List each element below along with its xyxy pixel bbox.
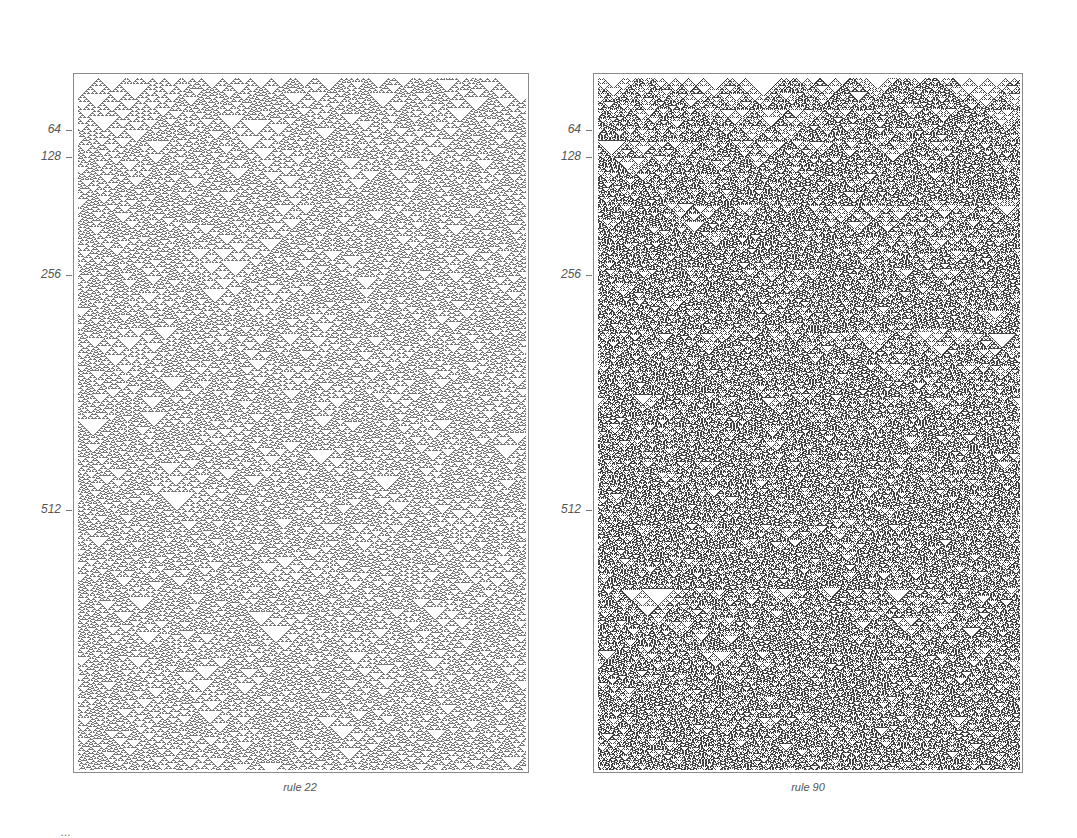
axis-tick-label: 64 (541, 122, 581, 136)
ca-pattern-rule-90 (598, 78, 1020, 770)
panel-caption: rule 90 (708, 781, 908, 793)
axis-tick (586, 130, 592, 131)
axis-tick-label: 128 (541, 149, 581, 163)
axis-tick (586, 510, 592, 511)
axis-tick (66, 130, 72, 131)
axis-tick-label: 512 (21, 502, 61, 516)
ca-panel-rule-90 (593, 73, 1023, 773)
axis-tick (66, 157, 72, 158)
axis-tick (586, 275, 592, 276)
ca-pattern-rule-22 (78, 78, 526, 770)
axis-tick-label: 256 (541, 267, 581, 281)
axis-tick-label: 128 (21, 149, 61, 163)
axis-tick-label: 512 (541, 502, 581, 516)
axis-tick-label: 64 (21, 122, 61, 136)
axis-tick-label: 256 (21, 267, 61, 281)
axis-tick (66, 510, 72, 511)
ca-panel-rule-22 (73, 73, 529, 773)
axis-tick (586, 157, 592, 158)
figure-caption-text: … (60, 826, 1040, 838)
panel-caption: rule 22 (200, 781, 400, 793)
axis-tick (66, 275, 72, 276)
